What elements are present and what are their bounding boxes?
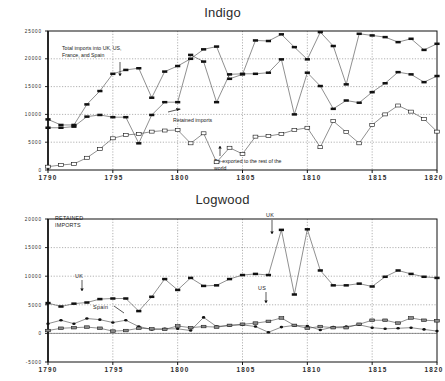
plot-area-indigo xyxy=(0,0,445,190)
plot-area-logwood xyxy=(0,190,445,380)
chart-panel-logwood: Logwood -5000 0 5000 10000 15000 20000 1… xyxy=(0,190,445,380)
chart-panel-indigo: Indigo 0 5000 10000 15000 20000 25000 17… xyxy=(0,0,445,190)
figure-root: Indigo 0 5000 10000 15000 20000 25000 17… xyxy=(0,0,445,381)
